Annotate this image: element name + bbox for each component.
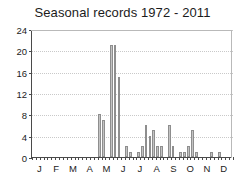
x-tick-mark	[67, 157, 68, 160]
x-tick-mark	[47, 157, 48, 160]
x-tick-mark	[117, 157, 118, 160]
bar	[149, 136, 152, 157]
x-tick-mark	[225, 157, 226, 160]
y-axis-tick-label: 24	[1, 25, 27, 36]
x-tick-mark	[32, 157, 33, 160]
x-axis-tick-label-may: M	[102, 163, 110, 174]
x-tick-mark	[86, 157, 87, 160]
bar	[141, 146, 144, 157]
x-axis-tick-label-june: J	[121, 163, 126, 174]
x-tick-mark	[105, 157, 106, 160]
x-tick-mark	[63, 157, 64, 160]
gridline	[32, 137, 233, 138]
y-tick-mark	[29, 94, 32, 95]
x-axis-tick-label-september: S	[170, 163, 176, 174]
x-tick-mark	[82, 157, 83, 160]
x-tick-mark	[78, 157, 79, 160]
x-tick-mark	[152, 157, 153, 160]
y-tick-mark	[29, 30, 32, 31]
x-axis-tick-label-january: J	[37, 163, 42, 174]
bar	[110, 45, 113, 157]
y-axis-tick-label: 4	[1, 131, 27, 142]
gridline	[32, 51, 233, 52]
bar	[125, 146, 128, 157]
x-tick-mark	[183, 157, 184, 160]
x-tick-mark	[113, 157, 114, 160]
y-tick-mark	[29, 73, 32, 74]
y-tick-mark	[29, 137, 32, 138]
x-tick-mark	[133, 157, 134, 160]
x-tick-mark	[75, 157, 76, 160]
x-tick-mark	[190, 157, 191, 160]
x-axis-tick-label-august: A	[153, 163, 159, 174]
x-tick-mark	[160, 157, 161, 160]
bar	[118, 77, 121, 157]
bar	[102, 120, 105, 157]
x-tick-mark	[98, 157, 99, 160]
x-tick-mark	[167, 157, 168, 160]
x-tick-mark	[144, 157, 145, 160]
x-axis-tick-label-march: M	[69, 163, 77, 174]
x-tick-mark	[140, 157, 141, 160]
y-tick-mark	[29, 115, 32, 116]
x-tick-mark	[202, 157, 203, 160]
bar	[160, 146, 163, 157]
y-axis-tick-label: 20	[1, 46, 27, 57]
x-tick-mark	[59, 157, 60, 160]
x-tick-mark	[125, 157, 126, 160]
x-tick-mark	[156, 157, 157, 160]
x-tick-mark	[55, 157, 56, 160]
x-tick-mark	[121, 157, 122, 160]
x-tick-mark	[148, 157, 149, 160]
x-tick-mark	[194, 157, 195, 160]
x-tick-mark	[198, 157, 199, 160]
x-tick-mark	[109, 157, 110, 160]
x-axis-tick-label-december: D	[220, 163, 227, 174]
x-tick-mark	[36, 157, 37, 160]
chart-root: Seasonal records 1972 - 2011 04812162024…	[0, 0, 245, 187]
bar	[145, 125, 148, 157]
bar	[187, 146, 190, 157]
bar	[172, 146, 175, 157]
x-tick-mark	[210, 157, 211, 160]
x-tick-mark	[129, 157, 130, 160]
gridline	[32, 115, 233, 116]
x-axis-tick-label-april: A	[86, 163, 92, 174]
y-axis-tick-label: 16	[1, 67, 27, 78]
bar	[156, 146, 159, 157]
chart-title: Seasonal records 1972 - 2011	[0, 5, 245, 20]
bar	[114, 45, 117, 157]
x-tick-mark	[206, 157, 207, 160]
x-tick-mark	[136, 157, 137, 160]
x-tick-mark	[214, 157, 215, 160]
x-axis-tick-label-october: O	[186, 163, 193, 174]
x-tick-mark	[102, 157, 103, 160]
x-tick-mark	[179, 157, 180, 160]
x-axis-tick-label-february: F	[53, 163, 59, 174]
x-tick-mark	[229, 157, 230, 160]
x-tick-mark	[44, 157, 45, 160]
bar	[191, 130, 194, 157]
x-tick-mark	[163, 157, 164, 160]
x-tick-mark	[171, 157, 172, 160]
x-tick-mark	[221, 157, 222, 160]
x-axis-tick-label-november: N	[203, 163, 210, 174]
bar	[98, 114, 101, 157]
x-tick-mark	[51, 157, 52, 160]
gridline	[32, 73, 233, 74]
x-axis-tick-label-july: J	[138, 163, 143, 174]
x-tick-mark	[94, 157, 95, 160]
y-axis-tick-label: 8	[1, 110, 27, 121]
x-tick-mark	[218, 157, 219, 160]
y-axis-tick-label: 12	[1, 89, 27, 100]
x-tick-mark	[90, 157, 91, 160]
gridline	[32, 30, 233, 31]
y-axis-tick-label: 0	[1, 153, 27, 164]
x-tick-mark	[40, 157, 41, 160]
bar	[168, 125, 171, 157]
x-tick-mark	[233, 157, 234, 160]
plot-area	[31, 30, 232, 158]
gridline	[32, 94, 233, 95]
x-tick-mark	[71, 157, 72, 160]
y-tick-mark	[29, 51, 32, 52]
